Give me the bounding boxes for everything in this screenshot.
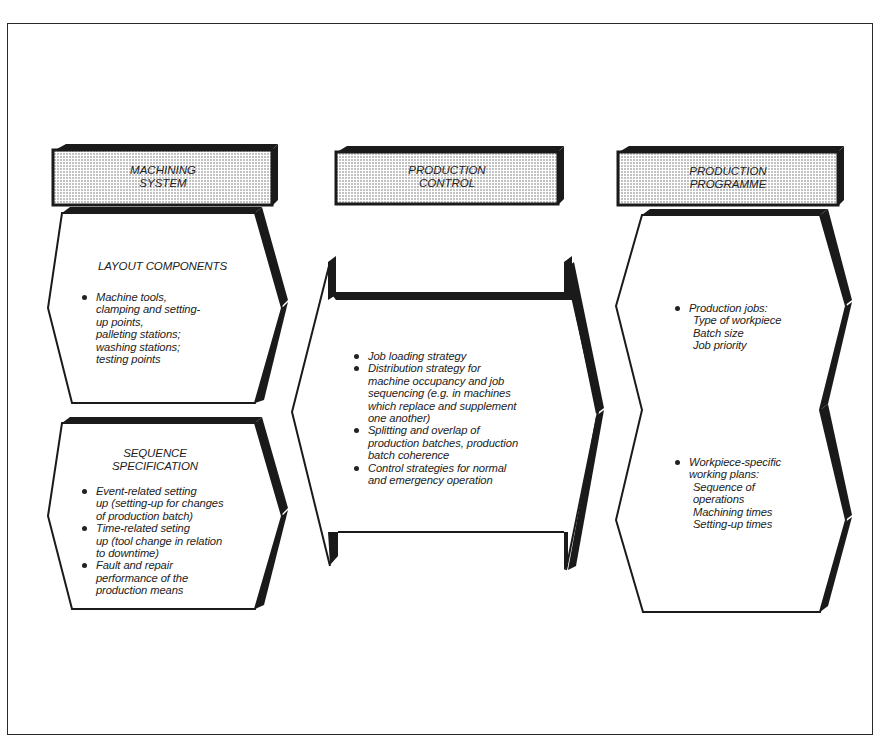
layout-components-content: LAYOUT COMPONENTS Machine tools, clampin… (80, 260, 260, 365)
shape-production-programme (616, 209, 852, 612)
list-item: Production jobs: Type of workpiece Batch… (673, 302, 843, 352)
box-title: LAYOUT COMPONENTS (80, 260, 260, 273)
production-jobs-content: Production jobs: Type of workpiece Batch… (673, 302, 843, 352)
list-item: Time-related seting up (tool change in r… (80, 522, 270, 559)
list-item: Distribution strategy for machine occupa… (352, 362, 592, 424)
header-production-programme: PRODUCTION PROGRAMME (620, 165, 836, 191)
header-machining-system: MACHINING SYSTEM (56, 164, 270, 190)
list-item: Control strategies for normal and emerge… (352, 462, 592, 487)
list-item: Job loading strategy (352, 350, 592, 362)
list-item: Workpiece-specific working plans: Sequen… (673, 456, 843, 530)
sequence-specification-content: SEQUENCE SPECIFICATION Event-related set… (80, 447, 270, 597)
list-item: Fault and repair performance of the prod… (80, 559, 270, 596)
list-item: Event-related setting up (setting-up for… (80, 485, 270, 522)
header-line: SYSTEM (56, 177, 270, 190)
box-title: SEQUENCE SPECIFICATION (80, 447, 230, 473)
header-line: CONTROL (338, 177, 556, 190)
bullet-list: Machine tools, clamping and setting- up … (80, 291, 260, 365)
bullet-list: Event-related setting up (setting-up for… (80, 485, 270, 597)
bullet-list: Production jobs: Type of workpiece Batch… (673, 302, 843, 352)
list-item: Machine tools, clamping and setting- up … (80, 291, 260, 365)
header-line: PRODUCTION (620, 165, 836, 178)
working-plans-content: Workpiece-specific working plans: Sequen… (673, 456, 843, 530)
header-production-control: PRODUCTION CONTROL (338, 164, 556, 190)
production-control-content: Job loading strategy Distribution strate… (352, 350, 592, 486)
bullet-list: Workpiece-specific working plans: Sequen… (673, 456, 843, 530)
header-line: MACHINING (56, 164, 270, 177)
header-line: PROGRAMME (620, 178, 836, 191)
header-line: PRODUCTION (338, 164, 556, 177)
list-item: Splitting and overlap of production batc… (352, 424, 592, 461)
bullet-list: Job loading strategy Distribution strate… (352, 350, 592, 486)
